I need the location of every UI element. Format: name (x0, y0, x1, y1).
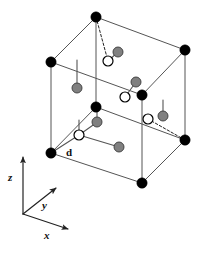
corner-atom-2 (180, 45, 190, 55)
corner-atom-5 (46, 148, 56, 158)
corner-atom-4 (91, 102, 101, 112)
cube-edge-top_back-top_left (51, 17, 96, 62)
gray-atom-4 (158, 111, 168, 121)
gray-atom-0 (113, 47, 123, 57)
bond-open-right (79, 135, 119, 147)
open-atom-2 (143, 114, 153, 124)
open-atom-0 (103, 56, 113, 66)
gray-atom-3 (92, 117, 102, 127)
corner-atoms-group (46, 12, 190, 188)
atom-bonds-dashed (96, 17, 185, 140)
corner-atom-7 (137, 178, 147, 188)
gray-atom-1 (72, 83, 82, 93)
cube-edge-bottom_left-bottom_front (51, 153, 142, 183)
axis-y (23, 188, 56, 214)
bond-length-label-d: d (66, 147, 72, 158)
cube-edge-bottom_back-bottom_right (96, 107, 185, 140)
open-atom-1 (120, 92, 130, 102)
open-atom-3 (74, 130, 84, 140)
axis-label-z: z (8, 172, 12, 183)
gray-atom-5 (114, 142, 124, 152)
cube-edge-bottom_right-bottom_front (142, 140, 185, 183)
gray-atom-2 (131, 77, 141, 87)
coordinate-axes-lines (23, 157, 68, 229)
cube-edge-top_right-top_front (142, 50, 185, 95)
crystal-unit-cell-figure (0, 0, 199, 254)
bond-dashed-right (148, 119, 185, 140)
corner-atom-6 (180, 135, 190, 145)
axis-label-x: x (44, 230, 50, 241)
bond-dashed-top (96, 17, 108, 61)
unit-cell-cube-edges (51, 17, 185, 183)
cube-edge-bottom_back-bottom_left (51, 107, 96, 153)
cube-edge-top_back-top_right (96, 17, 185, 50)
corner-atom-3 (137, 90, 147, 100)
axis-x (23, 214, 68, 229)
corner-atom-1 (46, 57, 56, 67)
corner-atom-0 (91, 12, 101, 22)
axis-label-y: y (42, 200, 47, 211)
atom-bonds-solid (51, 52, 163, 153)
